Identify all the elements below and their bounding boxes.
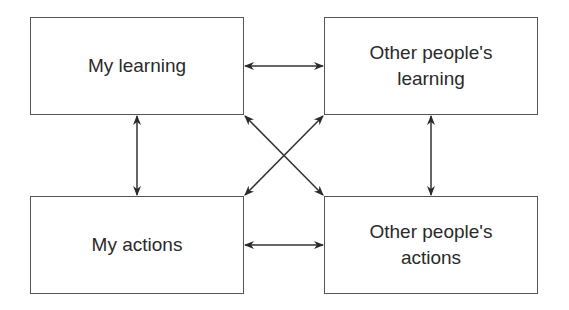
- node-my-actions: My actions: [30, 196, 244, 294]
- node-my-learning: My learning: [30, 17, 244, 115]
- node-label: My learning: [88, 53, 186, 79]
- node-label: Other people's actions: [370, 219, 493, 271]
- node-label: Other people's learning: [370, 40, 493, 92]
- node-others-learning: Other people's learning: [324, 17, 538, 115]
- node-others-actions: Other people's actions: [324, 196, 538, 294]
- node-label: My actions: [92, 232, 183, 258]
